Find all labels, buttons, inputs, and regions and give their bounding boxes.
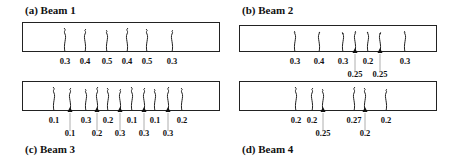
arrowhead-icon: [378, 48, 383, 53]
arrowhead-icon: [166, 107, 171, 112]
crack-line: [181, 88, 183, 111]
arrowhead-icon: [353, 48, 358, 53]
crack-line: [64, 28, 66, 52]
crack-line: [318, 32, 320, 52]
crack-line: [84, 29, 86, 52]
crack-line: [311, 88, 313, 111]
crack-line: [404, 31, 406, 52]
arrowhead-icon: [142, 107, 147, 112]
crack-line: [353, 87, 355, 111]
crack-line: [126, 28, 128, 52]
crack-line: [96, 87, 98, 111]
crack-line: [295, 87, 297, 111]
arrowhead-icon: [68, 107, 73, 112]
crack-line: [367, 32, 369, 52]
crack-line: [167, 87, 169, 111]
crack-line: [146, 29, 148, 52]
arrowhead-icon: [95, 107, 100, 112]
crack-line: [154, 89, 156, 111]
arrowhead-icon: [363, 107, 368, 112]
crack-line: [53, 87, 55, 111]
crack-line: [106, 30, 108, 52]
arrowhead-icon: [321, 107, 326, 112]
crack-line: [131, 87, 133, 111]
crack-line: [107, 88, 109, 111]
crack-lines-layer: [0, 0, 455, 157]
crack-line: [85, 89, 87, 111]
crack-line: [385, 89, 387, 111]
crack-line: [171, 30, 173, 52]
arrowhead-icon: [118, 107, 123, 112]
crack-line: [342, 33, 344, 52]
crack-line: [294, 31, 296, 52]
